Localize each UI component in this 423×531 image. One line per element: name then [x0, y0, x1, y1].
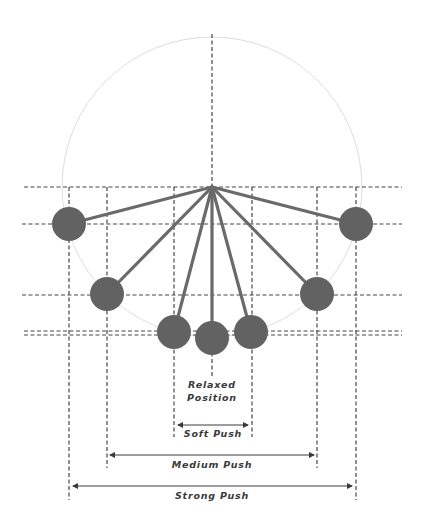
- medium-push-label: Medium Push: [172, 459, 253, 470]
- relaxed-label-line1: Relaxed: [188, 379, 236, 390]
- bob-soft-left: [157, 315, 191, 349]
- bob-soft-right: [234, 315, 268, 349]
- bob-medium-right: [300, 277, 334, 311]
- pendulum-rods: [69, 187, 356, 338]
- bob-medium-left: [90, 277, 124, 311]
- strong-push-label: Strong Push: [175, 490, 249, 501]
- bob-strong-left: [52, 207, 86, 241]
- bob-relaxed: [195, 321, 229, 355]
- relaxed-label-line2: Position: [187, 392, 237, 403]
- pendulum-diagram: Relaxed Position Soft Push Medium Push S…: [0, 0, 423, 531]
- soft-push-label: Soft Push: [184, 428, 242, 439]
- bob-strong-right: [339, 207, 373, 241]
